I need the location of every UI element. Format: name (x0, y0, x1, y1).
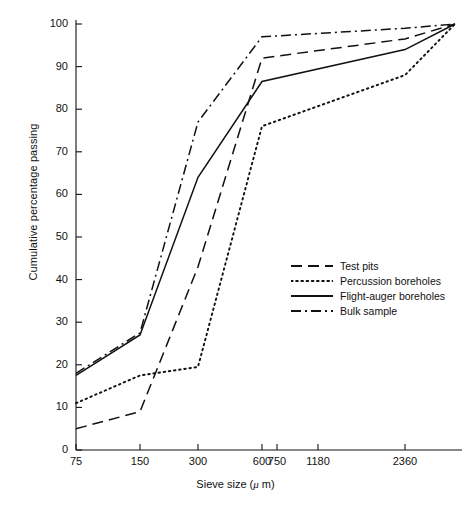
legend-item: Percussion boreholes (291, 273, 466, 288)
legend-key-dotted (291, 276, 333, 286)
x-axis-ticks (76, 444, 405, 450)
x-axis-label-pre: Sieve size ( (196, 478, 253, 490)
chart-container: 0102030405060708090100 75150300600750118… (0, 0, 471, 508)
x-tick-label: 750 (254, 455, 300, 467)
x-tick-label: 75 (53, 455, 99, 467)
series-line-flight-auger-boreholes (76, 24, 455, 375)
series-layer (76, 24, 455, 429)
legend-item: Bulk sample (291, 303, 466, 318)
sieve-grading-chart (0, 0, 471, 508)
y-tick-label: 30 (38, 315, 68, 327)
legend-label: Bulk sample (340, 306, 397, 316)
y-tick-label: 100 (38, 17, 68, 29)
legend-key-solid (291, 291, 333, 301)
legend-item: Test pits (291, 258, 466, 273)
series-line-test-pits (76, 24, 455, 429)
y-tick-label: 50 (38, 230, 68, 242)
legend-key-dashed (291, 261, 333, 271)
legend-label: Flight-auger boreholes (340, 291, 445, 301)
x-tick-label: 2360 (382, 455, 428, 467)
y-tick-label: 80 (38, 102, 68, 114)
legend-key-dash-dot (291, 306, 333, 316)
y-axis-ticks (76, 24, 82, 450)
legend-label: Percussion boreholes (340, 276, 441, 286)
y-tick-label: 20 (38, 358, 68, 370)
y-axis-label: Cumulative percentage passing (27, 97, 39, 307)
x-axis-label: Sieve size (μ m) (0, 478, 471, 490)
x-tick-label: 150 (117, 455, 163, 467)
series-line-bulk-sample (76, 24, 455, 373)
y-tick-label: 90 (38, 60, 68, 72)
x-axis-label-post: m) (259, 478, 275, 490)
legend-label: Test pits (340, 261, 379, 271)
x-tick-label: 1180 (295, 455, 341, 467)
y-tick-label: 0 (38, 443, 68, 455)
y-tick-label: 60 (38, 187, 68, 199)
legend-item: Flight-auger boreholes (291, 288, 466, 303)
y-tick-label: 70 (38, 145, 68, 157)
y-tick-label: 10 (38, 400, 68, 412)
legend: Test pitsPercussion boreholesFlight-auge… (291, 258, 466, 318)
y-tick-label: 40 (38, 273, 68, 285)
x-tick-label: 300 (175, 455, 221, 467)
